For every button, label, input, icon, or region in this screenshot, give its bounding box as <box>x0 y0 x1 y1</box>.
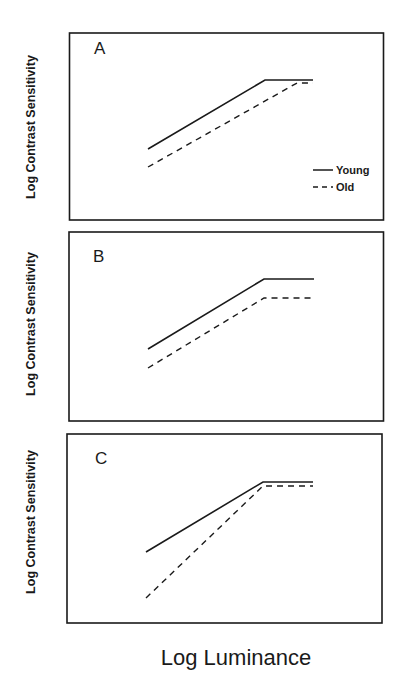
panel-b-young-line <box>148 279 314 349</box>
panel-a-young-line <box>148 80 313 149</box>
panel-b-frame <box>69 232 384 421</box>
figure: A Log Contrast Sensitivity Young Old B L… <box>0 0 405 681</box>
panel-a-ylabel: Log Contrast Sensitivity <box>24 55 38 199</box>
panel-a-old-line <box>148 83 313 167</box>
panel-c: C Log Contrast Sensitivity <box>24 434 382 623</box>
panel-c-label: C <box>95 449 107 468</box>
panel-c-ylabel: Log Contrast Sensitivity <box>24 450 38 594</box>
legend-young-label: Young <box>336 164 369 176</box>
panel-c-frame <box>67 434 382 623</box>
legend: Young Old <box>313 164 369 193</box>
x-axis-label: Log Luminance <box>161 645 311 670</box>
legend-old-label: Old <box>336 181 354 193</box>
panel-b-label: B <box>93 247 104 266</box>
panel-b-ylabel: Log Contrast Sensitivity <box>24 252 38 396</box>
panel-a-label: A <box>94 39 106 58</box>
panel-a: A Log Contrast Sensitivity Young Old <box>24 33 384 220</box>
panel-b-old-line <box>148 298 314 368</box>
panel-c-young-line <box>146 482 313 552</box>
panel-b: B Log Contrast Sensitivity <box>24 232 384 421</box>
